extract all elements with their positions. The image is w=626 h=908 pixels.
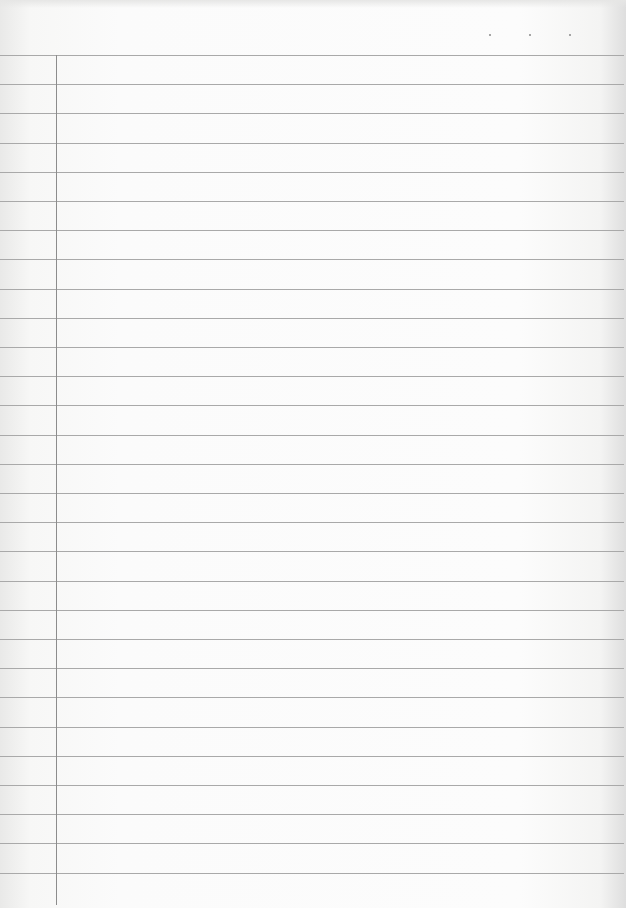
ruled-line — [0, 376, 624, 377]
notebook-page — [0, 0, 626, 908]
ruled-line — [0, 84, 624, 85]
header-dot — [569, 34, 571, 36]
ruled-line — [0, 814, 624, 815]
ruled-line — [0, 259, 624, 260]
ruled-line — [0, 610, 624, 611]
header-dots — [0, 34, 626, 38]
ruled-line — [0, 697, 624, 698]
margin-line — [56, 55, 57, 905]
header-dot — [529, 34, 531, 36]
ruled-line — [0, 522, 624, 523]
header-dot — [489, 34, 491, 36]
ruled-line — [0, 405, 624, 406]
ruled-line — [0, 318, 624, 319]
ruled-line — [0, 639, 624, 640]
ruled-line — [0, 55, 624, 56]
ruled-line — [0, 230, 624, 231]
ruled-line — [0, 493, 624, 494]
ruled-line — [0, 756, 624, 757]
page-top-edge — [0, 0, 626, 8]
ruled-line — [0, 727, 624, 728]
ruled-line — [0, 172, 624, 173]
ruled-line — [0, 143, 624, 144]
ruled-line — [0, 581, 624, 582]
ruled-line — [0, 435, 624, 436]
ruled-line — [0, 201, 624, 202]
ruled-line — [0, 113, 624, 114]
ruled-line — [0, 873, 624, 874]
ruled-line — [0, 843, 624, 844]
ruled-line — [0, 785, 624, 786]
ruled-line — [0, 668, 624, 669]
ruled-line — [0, 551, 624, 552]
ruled-line — [0, 289, 624, 290]
ruled-line — [0, 464, 624, 465]
ruled-line — [0, 347, 624, 348]
